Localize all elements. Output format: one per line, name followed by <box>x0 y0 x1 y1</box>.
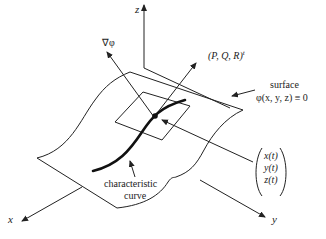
characteristic-curve <box>93 100 185 171</box>
surface-right-edge <box>176 110 243 177</box>
direction-vector-label: (P, Q, R)t <box>208 50 245 61</box>
characteristic-label-line2: curve <box>124 191 146 201</box>
y-axis-lower <box>200 180 265 217</box>
surface-pointer <box>232 90 255 96</box>
surface-equation-label: φ(x, y, z) ≡ 0 <box>256 93 308 103</box>
direction-vector-text: (P, Q, R) <box>208 50 243 61</box>
curve-pointer <box>130 161 135 177</box>
y-axis-label: y <box>272 214 277 225</box>
curve-point <box>152 113 158 119</box>
direction-superscript: t <box>243 49 245 57</box>
param-z: z(t) <box>261 174 281 186</box>
z-axis-label: z <box>135 4 139 15</box>
param-pointer <box>162 120 253 162</box>
gradient-label: ∇φ <box>102 38 115 48</box>
characteristic-label-line1: characteristic <box>104 179 157 189</box>
parametric-vector: x(t) y(t) z(t) <box>261 150 281 186</box>
surface-title-label: surface <box>270 80 299 90</box>
gradient-vector <box>107 52 154 117</box>
characteristic-curve-diagram <box>0 0 326 239</box>
direction-vector <box>154 63 196 117</box>
x-axis <box>22 187 82 221</box>
x-axis-label: x <box>8 214 13 225</box>
surface-left-edge <box>37 72 130 158</box>
param-x: x(t) <box>261 150 281 162</box>
param-y: y(t) <box>261 162 281 174</box>
